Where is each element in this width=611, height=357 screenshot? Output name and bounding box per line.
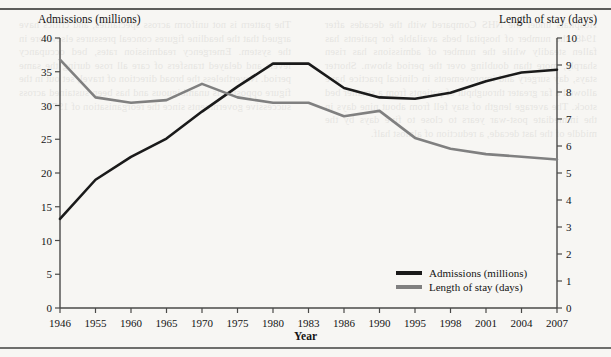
y-axis-left-tick-label: 20 xyxy=(18,167,52,179)
x-axis-tick-label: 1980 xyxy=(262,317,284,329)
x-axis-tick-label: 1955 xyxy=(85,317,107,329)
y-axis-left-tick-label: 5 xyxy=(18,268,52,280)
y-axis-left-tick-label: 30 xyxy=(18,100,52,112)
x-axis-tick-label: 1998 xyxy=(440,317,462,329)
x-axis-tick-label: 1960 xyxy=(120,317,142,329)
rule-top xyxy=(0,8,611,10)
x-axis-tick-label: 1975 xyxy=(227,317,249,329)
rule-bottom xyxy=(0,347,611,349)
y-axis-left-tick-label: 35 xyxy=(18,66,52,78)
y-axis-right-tick-label: 4 xyxy=(566,194,596,206)
figure-page: Hospitals under the NHS Compared with th… xyxy=(0,0,611,357)
y-axis-right-tick-label: 1 xyxy=(566,275,596,287)
y-axis-left-title: Admissions (millions) xyxy=(38,13,141,25)
x-axis-tick-label: 1995 xyxy=(404,317,426,329)
y-axis-left-tick-label: 0 xyxy=(18,302,52,314)
legend-item: Length of stay (days) xyxy=(396,280,527,294)
y-axis-right-tick-label: 8 xyxy=(566,86,596,98)
chart-legend: Admissions (millions)Length of stay (day… xyxy=(396,266,527,294)
x-axis-tick-label: 2001 xyxy=(475,317,497,329)
y-axis-right-tick-label: 10 xyxy=(566,32,596,44)
x-axis-tick-label: 1965 xyxy=(156,317,178,329)
x-axis-tick-label: 1986 xyxy=(333,317,355,329)
x-axis-tick-label: 1990 xyxy=(369,317,391,329)
legend-swatch-icon xyxy=(396,285,422,289)
y-axis-right-tick-label: 0 xyxy=(566,302,596,314)
series-line-length-of-stay-days xyxy=(60,60,557,160)
series-line-admissions-millions xyxy=(60,64,557,219)
x-axis-tick-label: 1983 xyxy=(298,317,320,329)
y-axis-right-title: Length of stay (days) xyxy=(499,13,597,25)
y-axis-right-tick-label: 3 xyxy=(566,221,596,233)
legend-item: Admissions (millions) xyxy=(396,266,527,280)
y-axis-right-tick-label: 5 xyxy=(566,167,596,179)
legend-item-label: Length of stay (days) xyxy=(429,281,523,293)
y-axis-left-tick-label: 40 xyxy=(18,32,52,44)
x-axis-tick-label: 2004 xyxy=(511,317,533,329)
x-axis-tick-label: 2007 xyxy=(546,317,568,329)
y-axis-left-tick-label: 25 xyxy=(18,133,52,145)
legend-swatch-icon xyxy=(396,271,422,275)
y-axis-right-tick-label: 7 xyxy=(566,113,596,125)
y-axis-right-tick-label: 9 xyxy=(566,59,596,71)
y-axis-left-tick-label: 10 xyxy=(18,235,52,247)
x-axis-title: Year xyxy=(0,330,611,342)
y-axis-left-tick-label: 15 xyxy=(18,201,52,213)
y-axis-right-tick-label: 6 xyxy=(566,140,596,152)
y-axis-right-tick-label: 2 xyxy=(566,248,596,260)
legend-item-label: Admissions (millions) xyxy=(429,267,527,279)
x-axis-tick-label: 1970 xyxy=(191,317,213,329)
x-axis-tick-label: 1946 xyxy=(49,317,71,329)
